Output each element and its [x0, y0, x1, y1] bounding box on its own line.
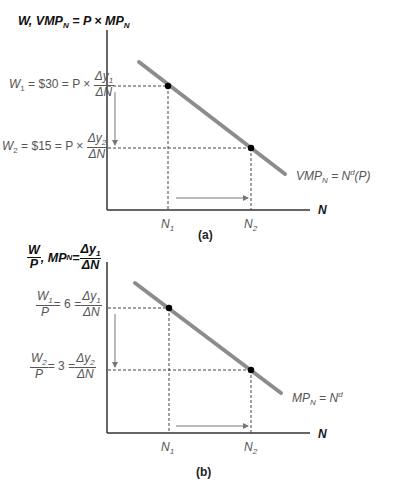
point-2 [248, 367, 254, 373]
point-2 [248, 145, 254, 151]
panel-a-w1-label: W1 = $30 = P × Δy1ΔN [9, 70, 114, 99]
panel-b-x-axis-label: N [318, 427, 327, 441]
panel-b-n2-label: N2 [244, 440, 257, 456]
panel-b-w2-label: W2P = 3 = Δy2ΔN [30, 352, 96, 381]
panel-b-graph [107, 262, 310, 433]
demand-curve [139, 62, 285, 174]
panel-a-n1-label: N1 [161, 217, 174, 233]
panel-a-n2-label: N2 [244, 217, 257, 233]
panel-a-w2-label: W2 = $15 = P × Δy2ΔN [2, 132, 107, 161]
panel-a-x-axis-label: N [318, 203, 327, 217]
panel-a-y-axis-title: W, VMPN = P × MPN [18, 14, 130, 30]
panel-b-caption: (b) [196, 465, 211, 479]
point-1 [166, 305, 172, 311]
panel-a-graph [107, 30, 310, 210]
panel-b-y-axis-title: WP , MPN = Δy1ΔN [27, 243, 101, 273]
panel-b-curve-label: MPN = Nd [292, 390, 343, 407]
panel-a-caption: (a) [198, 228, 213, 242]
panel-b-w1-label: W1P = 6 = Δy1ΔN [36, 290, 102, 319]
point-1 [165, 83, 171, 89]
panel-b-n1-label: N1 [161, 440, 174, 456]
demand-curve [135, 283, 281, 393]
panel-a-curve-label: VMPN = Nd(P) [296, 168, 371, 185]
